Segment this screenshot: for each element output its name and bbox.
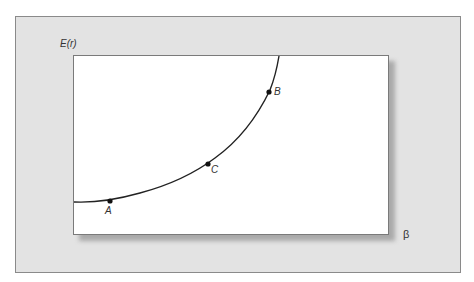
point-c-label: C: [211, 164, 218, 175]
point-b-label: B: [274, 86, 281, 97]
curve: [0, 0, 474, 282]
point-b-marker: [266, 89, 271, 94]
point-a-marker: [107, 198, 112, 203]
point-a-label: A: [105, 205, 112, 216]
point-c-marker: [205, 161, 210, 166]
